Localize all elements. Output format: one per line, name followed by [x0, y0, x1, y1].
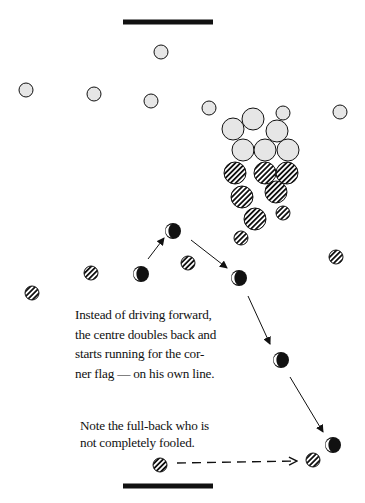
caption-line: the centre doubles back and [75, 325, 216, 345]
light-player-icon [232, 139, 254, 161]
light-player-icon [276, 106, 290, 120]
caption-line: ner flag — on his own line. [75, 364, 216, 384]
light-player-icon [144, 94, 158, 108]
centre-forward-icon [165, 223, 181, 239]
run-arrow-icon [148, 238, 164, 259]
hatched-player-icon [153, 458, 167, 472]
caption-line: Note the full-back who is [80, 417, 209, 434]
hatched-player-icon [276, 162, 298, 184]
hatched-player-icon [234, 231, 248, 245]
run-arrow-icon [191, 240, 227, 268]
hatched-player-icon [306, 453, 320, 467]
light-player-icon [154, 45, 168, 59]
hatched-player-icon [84, 266, 98, 280]
light-player-icon [266, 120, 288, 142]
light-player-icon [202, 101, 216, 115]
hatched-player-icon [181, 256, 195, 270]
fullback-caption: Note the full-back who is not completely… [80, 417, 209, 451]
caption-line: Instead of driving forward, [75, 305, 216, 325]
fullback-dashed-arrow-icon [177, 461, 297, 463]
centre-forward-icon [133, 266, 149, 282]
caption-line: not completely fooled. [80, 434, 209, 451]
top-goal-line [123, 20, 213, 25]
hatched-player-icon [329, 250, 343, 264]
hatched-player-icon [254, 162, 276, 184]
light-player-icon [277, 139, 299, 161]
light-player-icon [254, 139, 276, 161]
hatched-player-icon [224, 162, 246, 184]
hatched-player-icon [25, 286, 39, 300]
run-caption: Instead of driving forward, the centre d… [75, 305, 216, 383]
hatched-player-icon [231, 186, 253, 208]
bottom-goal-line [123, 484, 213, 489]
light-player-icon [19, 83, 33, 97]
hatched-player-icon [276, 206, 290, 220]
centre-forward-icon [325, 437, 341, 453]
centre-forward-icon [231, 270, 247, 286]
light-player-icon [333, 105, 347, 119]
centre-forward-icon [273, 352, 289, 368]
run-arrow-icon [290, 377, 323, 432]
light-player-icon [222, 118, 244, 140]
hatched-player-icon [244, 208, 266, 230]
run-arrow-icon [248, 296, 270, 344]
attacking-team-players [19, 45, 347, 161]
light-player-icon [87, 87, 101, 101]
hatched-player-icon [265, 181, 287, 203]
light-player-icon [242, 108, 264, 130]
caption-line: starts running for the cor- [75, 344, 216, 364]
